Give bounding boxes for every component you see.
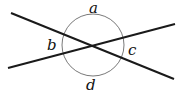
angle-diagram: a b c d (0, 0, 179, 91)
line-ascending (8, 24, 175, 68)
angle-label-d: d (86, 76, 96, 91)
angle-label-a: a (89, 0, 98, 17)
angle-label-b: b (47, 36, 57, 54)
angle-label-c: c (128, 41, 137, 59)
